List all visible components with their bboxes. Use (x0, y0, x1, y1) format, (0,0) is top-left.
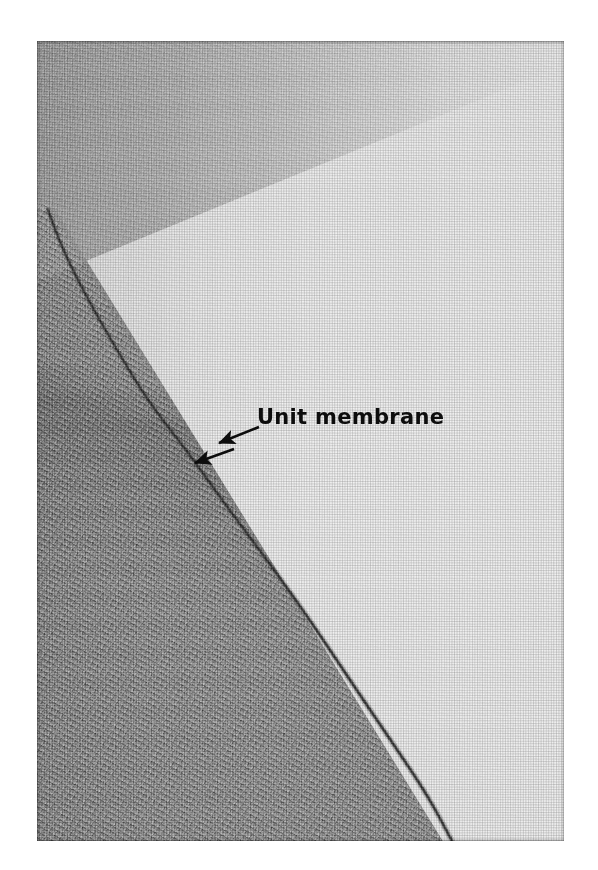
unit-membrane-label: Unit membrane (257, 407, 444, 428)
figure-root: Unit membrane (0, 0, 598, 870)
micrograph-plate (37, 41, 564, 841)
halftone-screen-highlight (37, 41, 564, 841)
